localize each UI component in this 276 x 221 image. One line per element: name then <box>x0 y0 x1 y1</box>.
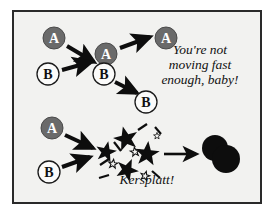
figure-panel: A B A B A <box>12 10 262 204</box>
merged-blob <box>202 135 240 173</box>
arrow-b-outgoing <box>115 82 137 93</box>
node-label: B <box>141 95 150 110</box>
blob-lobe <box>212 145 240 173</box>
spark-line <box>155 127 161 134</box>
node-label: A <box>47 121 58 136</box>
spark-line <box>114 142 121 151</box>
node-b-meeting: B <box>93 63 115 85</box>
quote-caption: You're not moving fast enough, baby! <box>142 42 258 87</box>
impact-caption: Kersplatt! <box>92 172 202 187</box>
arrow-a-incoming <box>67 46 94 62</box>
node-label: B <box>99 67 108 82</box>
arrow-b-collide <box>62 157 90 167</box>
spark-line <box>138 124 147 130</box>
node-b-collider: B <box>38 161 60 183</box>
node-b-outgoing: B <box>135 91 157 113</box>
collision-cartoon-figure: A B A B A <box>0 0 276 221</box>
burst-star <box>111 123 141 152</box>
node-label: A <box>49 31 60 46</box>
node-a-incoming: A <box>43 27 65 49</box>
node-label: A <box>101 47 112 62</box>
arrow-a-collide <box>65 135 93 148</box>
node-a-meeting: A <box>95 43 117 65</box>
spark-line <box>100 159 109 165</box>
arrow-b-incoming <box>62 62 91 70</box>
node-label: B <box>44 165 53 180</box>
node-b-incoming: B <box>37 63 59 85</box>
node-label: B <box>43 67 52 82</box>
node-a-collider: A <box>41 117 63 139</box>
